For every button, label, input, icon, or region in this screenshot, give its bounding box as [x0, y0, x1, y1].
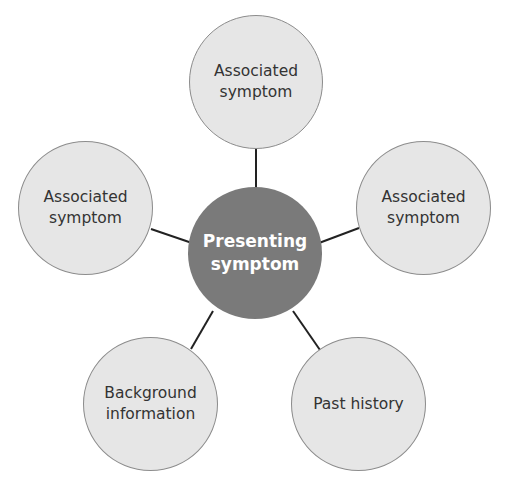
connector-bottom-right [293, 311, 320, 350]
node-associated-symptom-right: Associated symptom [356, 141, 491, 275]
node-background-information: Background information [83, 337, 218, 471]
connector-right [319, 228, 359, 243]
node-label: Associated symptom [43, 187, 127, 229]
node-label: Past history [313, 394, 404, 415]
node-past-history: Past history [291, 337, 426, 471]
connector-bottom-left [191, 311, 213, 349]
connector-left [151, 229, 192, 243]
node-label: Associated symptom [214, 61, 298, 103]
node-associated-symptom-left: Associated symptom [18, 141, 153, 275]
node-presenting-symptom: Presenting symptom [188, 187, 322, 319]
center-label: Presenting symptom [203, 230, 307, 276]
node-associated-symptom-top: Associated symptom [189, 15, 323, 149]
node-label: Background information [104, 383, 196, 425]
node-label: Associated symptom [381, 187, 465, 229]
